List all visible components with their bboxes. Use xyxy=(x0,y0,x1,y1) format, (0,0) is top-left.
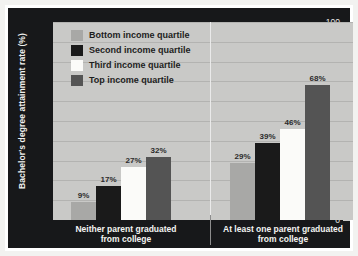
y-axis-title: Bachelor's degree attainment rate (%) xyxy=(17,11,27,211)
plot-area: 9%17%27%32%29%39%46%68% Bottom income qu… xyxy=(53,22,353,220)
bar xyxy=(146,157,171,220)
legend-label: Third income quartile xyxy=(89,60,181,70)
category-label: At least one parent graduatedfrom colleg… xyxy=(198,224,358,244)
legend-label: Top income quartile xyxy=(89,75,174,85)
legend-item: Third income quartile xyxy=(71,58,191,72)
legend-swatch xyxy=(71,60,83,71)
bar xyxy=(280,129,305,220)
category-label-line: At least one parent graduated xyxy=(198,224,358,234)
legend-label: Second income quartile xyxy=(89,45,191,55)
legend-item: Top income quartile xyxy=(71,73,191,87)
legend-item: Second income quartile xyxy=(71,43,191,57)
category-label-line: Neither parent graduated xyxy=(41,224,211,234)
bar xyxy=(121,167,146,220)
category-label: Neither parent graduatedfrom college xyxy=(41,224,211,244)
bar-value-label: 68% xyxy=(301,74,334,83)
category-label-line: from college xyxy=(198,234,358,244)
gridline xyxy=(53,22,353,23)
legend-swatch xyxy=(71,30,83,41)
bar xyxy=(71,202,96,220)
bar xyxy=(96,186,121,220)
legend-item: Bottom income quartile xyxy=(71,28,191,42)
legend-label: Bottom income quartile xyxy=(89,30,190,40)
legend-swatch xyxy=(71,45,83,56)
bar xyxy=(255,143,280,220)
category-divider xyxy=(210,215,211,245)
bar xyxy=(230,163,255,220)
legend-swatch xyxy=(71,75,83,86)
axis-panel: Bachelor's degree attainment rate (%) 10… xyxy=(8,8,350,248)
y-axis-tick-mark xyxy=(343,220,350,221)
figure: Bachelor's degree attainment rate (%) 10… xyxy=(0,0,358,256)
bar-value-label: 32% xyxy=(142,146,175,155)
group-divider xyxy=(210,22,211,220)
legend: Bottom income quartileSecond income quar… xyxy=(71,28,191,88)
bar xyxy=(305,85,330,220)
category-label-line: from college xyxy=(41,234,211,244)
